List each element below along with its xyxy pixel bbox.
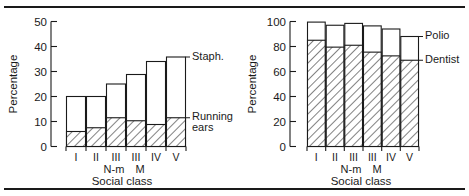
right-bar-group-2 — [326, 25, 344, 146]
left-cat-label-2: II — [93, 151, 99, 163]
left-ytick-30: 30 — [34, 66, 47, 78]
right-legend-dentist: Dentist — [425, 53, 459, 65]
right-cat-label-1: I — [315, 151, 318, 163]
left-cat-label-1: I — [75, 151, 78, 163]
right-bar-group-3 — [345, 23, 363, 146]
right-ytick-60: 60 — [273, 66, 286, 78]
left-bar-group-4 — [127, 75, 146, 147]
right-bar-group-1 — [308, 22, 326, 146]
right-bar-group-4 — [364, 26, 382, 147]
left-bar-group-3 — [107, 84, 126, 147]
left-y-axis: 50 40 30 20 10 0 Percentage — [7, 16, 57, 153]
left-x-axis-title: Social class — [92, 175, 153, 186]
right-cat-label-4: III — [368, 151, 377, 163]
left-ytick-50: 50 — [34, 16, 47, 28]
right-bar-group-6 — [401, 37, 419, 147]
figure-container: 50 40 30 20 10 0 Percentage — [0, 0, 469, 196]
left-group-label-m: M — [135, 163, 144, 175]
left-cat-label-6: V — [172, 151, 179, 163]
left-y-axis-title: Percentage — [7, 55, 19, 114]
right-group-label-m: M — [372, 163, 381, 175]
chart-panel-left: 50 40 30 20 10 0 Percentage — [0, 8, 234, 186]
left-cat-label-4: III — [132, 151, 141, 163]
right-cat-label-5: IV — [386, 151, 396, 163]
left-cat-label-3: III — [112, 151, 121, 163]
right-chart-svg: 100 80 60 40 20 0 Percentage — [235, 8, 469, 186]
left-legend-ears: ears — [192, 121, 214, 133]
right-ytick-20: 20 — [273, 116, 286, 128]
right-y-axis-title: Percentage — [246, 55, 258, 114]
right-cat-label-3: III — [349, 151, 358, 163]
left-bar-group-6 — [167, 57, 186, 147]
right-group-label-nm: N-m — [341, 163, 362, 175]
left-ytick-0: 0 — [41, 141, 47, 153]
chart-panels: 50 40 30 20 10 0 Percentage — [0, 8, 469, 186]
left-legend-staph: Staph. — [192, 50, 224, 62]
right-legend: Polio Dentist — [419, 29, 460, 65]
bottom-rule — [4, 188, 465, 190]
right-bar-group-5 — [382, 29, 400, 147]
left-bar-group-5 — [147, 62, 166, 147]
chart-panel-right: 100 80 60 40 20 0 Percentage — [235, 8, 469, 186]
right-x-axis — [307, 147, 419, 152]
left-legend: Staph. Running ears — [186, 50, 233, 133]
left-group-label-nm: N-m — [104, 163, 125, 175]
left-bar-group-1 — [67, 97, 86, 147]
right-ytick-0: 0 — [280, 141, 286, 153]
right-x-axis-title: Social class — [331, 175, 392, 186]
left-x-axis — [66, 147, 186, 152]
left-ytick-20: 20 — [34, 91, 47, 103]
left-chart-svg: 50 40 30 20 10 0 Percentage — [0, 8, 234, 186]
left-bar-group-2 — [87, 97, 106, 147]
left-cat-label-5: IV — [151, 151, 161, 163]
right-ytick-80: 80 — [273, 41, 286, 53]
left-ytick-40: 40 — [34, 41, 47, 53]
right-ytick-100: 100 — [267, 16, 286, 28]
right-y-axis: 100 80 60 40 20 0 Percentage — [246, 16, 296, 153]
right-ytick-40: 40 — [273, 91, 286, 103]
right-cat-label-6: V — [406, 151, 413, 163]
right-cat-label-2: II — [332, 151, 338, 163]
right-legend-polio: Polio — [425, 29, 449, 41]
left-ytick-10: 10 — [34, 116, 47, 128]
